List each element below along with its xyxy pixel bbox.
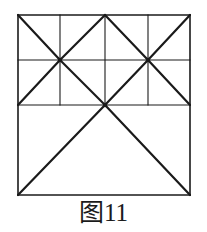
node-upper-left (58, 58, 63, 63)
node-upper-right (146, 58, 151, 63)
caption-number: 11 (104, 199, 128, 226)
caption-cjk-label: 图 (79, 198, 104, 227)
node-center-apex (103, 103, 108, 108)
figure-container: 图11 (0, 0, 207, 232)
figure-caption: 图11 (0, 198, 207, 228)
